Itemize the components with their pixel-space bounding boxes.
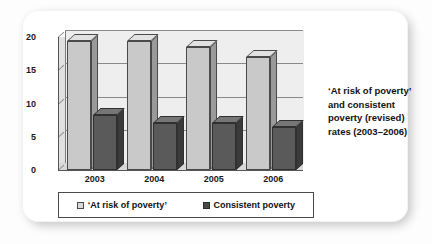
bar-2004-series2 — [153, 123, 177, 170]
bar-front-face — [246, 57, 270, 170]
bar-front-face — [127, 41, 151, 170]
figure-caption: ‘At risk of poverty’ and consistent pove… — [328, 84, 424, 138]
bar-2006-series2 — [272, 127, 296, 170]
bar-2004-series1 — [127, 41, 151, 170]
legend-swatch-icon — [77, 202, 84, 209]
x-axis — [58, 170, 303, 171]
gridline — [65, 30, 303, 31]
legend-swatch-icon — [203, 202, 210, 209]
bar-front-face — [93, 115, 117, 170]
x-axis-tick-label: 2004 — [124, 174, 184, 184]
bar-2003-series1 — [67, 41, 91, 170]
bar-front-face — [272, 127, 296, 170]
y-axis-tick-label: 20 — [26, 32, 40, 42]
bar-2003-series2 — [93, 115, 117, 170]
y-axis — [58, 37, 59, 170]
y-axis-tick-label: 10 — [26, 99, 40, 109]
legend-item-label: ‘At risk of poverty’ — [88, 200, 167, 210]
bar-side-face — [296, 120, 303, 170]
bar-2005-series1 — [186, 47, 210, 170]
chart-legend: ‘At risk of poverty’Consistent poverty — [58, 192, 314, 218]
bar-2005-series2 — [212, 123, 236, 170]
x-axis-tick-label: 2005 — [184, 174, 244, 184]
y-axis-tick-label: 15 — [26, 65, 40, 75]
legend-item-2: Consistent poverty — [203, 200, 296, 210]
bar-front-face — [67, 41, 91, 170]
bar-side-face — [117, 109, 124, 170]
bar-front-face — [186, 47, 210, 170]
x-axis-tick-label: 2003 — [65, 174, 125, 184]
legend-item-label: Consistent poverty — [214, 200, 296, 210]
y-axis-tick-label: 0 — [31, 165, 40, 175]
bar-front-face — [212, 123, 236, 170]
bar-side-face — [236, 117, 243, 170]
bar-2006-series1 — [246, 57, 270, 170]
bar-side-face — [177, 117, 184, 170]
bar-chart: 05101520 2003200420052006 — [40, 18, 318, 178]
bar-front-face — [153, 123, 177, 170]
legend-item-1: ‘At risk of poverty’ — [77, 200, 167, 210]
x-axis-tick-label: 2006 — [243, 174, 303, 184]
screenshot-page: 05101520 2003200420052006 ‘At risk of po… — [0, 0, 432, 244]
y-axis-tick-label: 5 — [31, 132, 40, 142]
